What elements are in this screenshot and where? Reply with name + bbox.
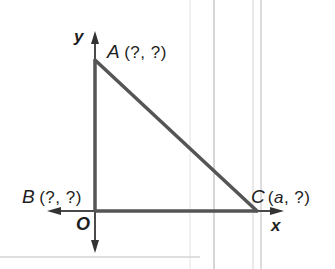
point-a-coords: (?, ?) — [124, 43, 167, 62]
point-b-coords: (?, ?) — [39, 188, 82, 207]
y-axis-up-arrow-icon — [91, 31, 99, 44]
x-axis-left-arrow-icon — [47, 207, 61, 215]
point-a-name: A — [107, 41, 120, 62]
point-c-coords-rest: , ?) — [284, 188, 311, 207]
segment-ac — [95, 60, 257, 211]
point-c-coords-var: a — [274, 188, 284, 207]
point-c-label: C(a, ?) — [251, 187, 310, 206]
origin-label: O — [76, 215, 90, 233]
coordinate-plane — [0, 0, 335, 269]
x-axis-label: x — [271, 217, 280, 234]
point-a-label: A (?, ?) — [107, 42, 167, 61]
y-axis-down-arrow-icon — [91, 240, 99, 253]
x-axis-right-arrow-icon — [270, 207, 284, 215]
y-axis-label: y — [74, 28, 83, 45]
point-b-label: B (?, ?) — [22, 187, 82, 206]
point-b-name: B — [22, 186, 35, 207]
point-c-name: C — [251, 186, 265, 207]
